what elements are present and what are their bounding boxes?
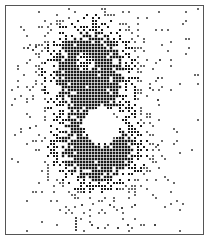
data-point: [137, 89, 139, 91]
data-point: [98, 50, 100, 52]
data-point: [116, 116, 118, 118]
data-point: [92, 161, 94, 163]
data-point: [71, 134, 73, 136]
data-point: [80, 77, 82, 79]
data-point: [86, 74, 88, 76]
data-point: [98, 179, 100, 181]
data-point: [116, 68, 118, 70]
data-point: [86, 173, 88, 175]
data-point: [86, 107, 88, 109]
data-point: [146, 59, 148, 61]
data-point: [107, 95, 109, 97]
data-point: [20, 26, 22, 28]
data-point: [134, 137, 136, 139]
data-point: [113, 65, 115, 67]
data-point: [137, 158, 139, 160]
data-point: [119, 38, 121, 40]
data-point: [137, 179, 139, 181]
data-point: [119, 62, 121, 64]
data-point: [77, 128, 79, 130]
data-point: [110, 98, 112, 100]
data-point: [95, 41, 97, 43]
data-point: [62, 131, 64, 133]
data-point: [68, 71, 70, 73]
data-point: [74, 104, 76, 106]
data-point: [107, 68, 109, 70]
data-point: [50, 80, 52, 82]
data-point: [128, 191, 130, 193]
data-point: [41, 89, 43, 91]
data-point: [86, 161, 88, 163]
data-point: [110, 32, 112, 34]
data-point: [176, 131, 178, 133]
data-point: [131, 47, 133, 49]
data-point: [92, 56, 94, 58]
data-point: [116, 158, 118, 160]
data-point: [74, 122, 76, 124]
data-point: [149, 87, 151, 89]
data-point: [74, 125, 76, 127]
data-point: [83, 80, 85, 82]
data-point: [83, 62, 85, 64]
data-point: [116, 161, 118, 163]
data-point: [131, 77, 133, 79]
data-point: [68, 137, 70, 139]
data-point: [62, 74, 64, 76]
data-point: [137, 131, 139, 133]
data-point: [77, 104, 79, 106]
data-point: [74, 107, 76, 109]
data-point: [89, 59, 91, 61]
data-point: [154, 224, 156, 226]
data-point: [41, 74, 43, 76]
data-point: [56, 158, 58, 160]
data-point: [137, 122, 139, 124]
data-point: [176, 140, 178, 142]
data-point: [185, 53, 187, 55]
data-point: [35, 140, 37, 142]
data-point: [80, 83, 82, 85]
data-point: [68, 89, 70, 91]
data-point: [149, 113, 151, 115]
data-point: [92, 92, 94, 94]
data-point: [71, 71, 73, 73]
data-point: [101, 74, 103, 76]
data-point: [77, 122, 79, 124]
data-point: [98, 32, 100, 34]
data-point: [89, 35, 91, 37]
data-point: [137, 68, 139, 70]
data-point: [119, 80, 121, 82]
data-point: [80, 26, 82, 28]
data-point: [113, 71, 115, 73]
data-point: [113, 164, 115, 166]
data-point: [62, 89, 64, 91]
data-point: [75, 223, 77, 225]
data-point: [161, 44, 163, 46]
data-point: [125, 116, 127, 118]
data-point: [143, 224, 145, 226]
data-point: [68, 74, 70, 76]
data-point: [38, 68, 40, 70]
data-point: [161, 86, 163, 88]
data-point: [89, 38, 91, 40]
data-point: [95, 92, 97, 94]
data-point: [128, 107, 130, 109]
data-point: [32, 95, 34, 97]
data-point: [119, 140, 121, 142]
data-point: [137, 23, 139, 25]
data-point: [116, 50, 118, 52]
data-point: [83, 113, 85, 115]
data-point: [197, 83, 199, 85]
data-point: [116, 104, 118, 106]
data-point: [89, 104, 91, 106]
data-point: [104, 35, 106, 37]
data-point: [131, 167, 133, 169]
data-point: [116, 182, 118, 184]
data-point: [104, 59, 106, 61]
data-point: [59, 74, 61, 76]
data-point: [128, 146, 130, 148]
data-point: [146, 188, 148, 190]
data-point: [59, 113, 61, 115]
data-point: [128, 131, 130, 133]
data-point: [110, 95, 112, 97]
data-point: [77, 59, 79, 61]
